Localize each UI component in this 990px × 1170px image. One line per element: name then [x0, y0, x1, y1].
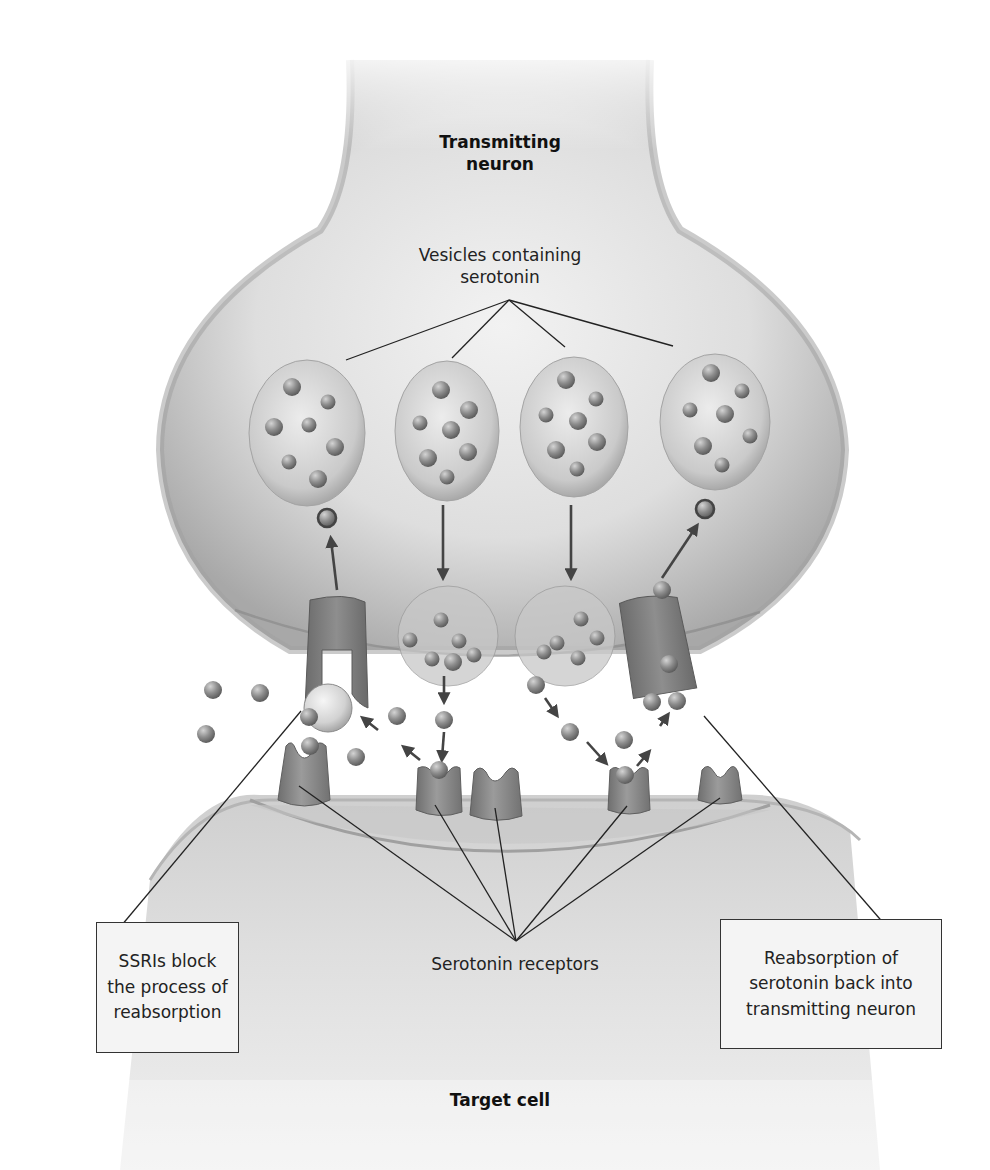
- reabsorption-callout-line3: transmitting neuron: [746, 997, 916, 1023]
- target-cell-label: Target cell: [420, 1089, 580, 1111]
- fusing-vesicle-left: [398, 586, 498, 686]
- ssri-callout-line3: reabsorption: [107, 1000, 227, 1026]
- ssri-callout-box: SSRIs block the process of reabsorption: [96, 922, 239, 1053]
- vesicles-label-line2: serotonin: [380, 266, 620, 288]
- transmitting-neuron-label-line1: Transmitting: [400, 131, 600, 153]
- transmitting-neuron-label: Transmitting neuron: [400, 131, 600, 175]
- vesicle-1: [249, 360, 365, 506]
- synapse-diagram: Transmitting neuron Vesicles containing …: [0, 0, 990, 1170]
- vesicle-2: [395, 361, 499, 501]
- ssri-callout-line2: the process of: [107, 975, 227, 1001]
- ssri-callout-line1: SSRIs block: [107, 949, 227, 975]
- reabsorption-callout-line1: Reabsorption of: [746, 946, 916, 972]
- transmitting-neuron-label-line2: neuron: [400, 153, 600, 175]
- vesicle-3: [520, 357, 628, 497]
- serotonin-receptors-label: Serotonin receptors: [400, 953, 630, 975]
- vesicles-label-line1: Vesicles containing: [380, 244, 620, 266]
- target-cell-text: Target cell: [450, 1090, 550, 1110]
- cleft-arrows: [364, 676, 667, 766]
- reabsorption-callout-line2: serotonin back into: [746, 971, 916, 997]
- reabsorption-callout-box: Reabsorption of serotonin back into tran…: [720, 919, 942, 1049]
- receptor-2: [416, 761, 462, 816]
- vesicle-4: [660, 354, 770, 490]
- receptor-4: [608, 766, 650, 814]
- serotonin-receptors-text: Serotonin receptors: [431, 954, 599, 974]
- vesicles-label: Vesicles containing serotonin: [380, 244, 620, 288]
- fusing-vesicle-right: [515, 586, 615, 686]
